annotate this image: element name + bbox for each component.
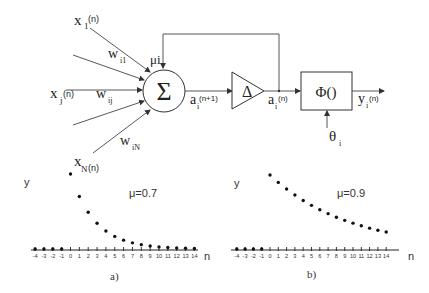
- chart-a-data-point: [131, 241, 134, 244]
- sum-output-label: a i (n+1): [190, 92, 218, 111]
- chart-a-tick-label: 13: [182, 253, 188, 259]
- chart-b-panel-label: b): [307, 268, 317, 281]
- chart-a-tick-label: 2: [87, 253, 90, 259]
- svg-text:w: w: [108, 46, 119, 61]
- chart-b-tick-label: 5: [310, 253, 313, 259]
- svg-text:a: a: [268, 92, 275, 107]
- svg-text:i: i: [339, 139, 342, 148]
- chart-b-tick-label: 0: [268, 253, 271, 259]
- svg-text:i1: i1: [120, 56, 126, 65]
- chart-a-data-point: [78, 195, 81, 198]
- chart-b-data-point: [277, 181, 280, 184]
- chart-a-tick-label: -1: [59, 253, 64, 259]
- chart-b: y μ=0.9 n b) -4-3-2-10123456789101112131…: [231, 173, 414, 281]
- chart-a-data-point: [122, 238, 125, 241]
- chart-b-tick-label: 12: [366, 253, 372, 259]
- chart-b-data-point: [318, 208, 321, 211]
- chart-a-data-point: [60, 247, 63, 250]
- chart-a-data-point: [87, 211, 90, 214]
- chart-b-tick-label: 9: [343, 253, 346, 259]
- svg-text:(n): (n): [63, 89, 74, 99]
- svg-text:i: i: [275, 102, 278, 111]
- chart-b-data-point: [335, 215, 338, 218]
- chart-a-data-point: [166, 246, 169, 249]
- chart-b-data-point: [235, 247, 238, 250]
- chart-b-tick-label: 11: [358, 253, 364, 259]
- chart-b-tick-label: 3: [293, 253, 296, 259]
- chart-b-annotation: μ=0.9: [337, 187, 365, 199]
- svg-text:a: a: [190, 92, 197, 107]
- chart-a-data-point: [113, 235, 116, 238]
- chart-b-tick-label: 4: [302, 253, 305, 259]
- chart-a-data-point: [51, 247, 54, 250]
- chart-b-data-point: [285, 187, 288, 190]
- chart-b-data-point: [376, 229, 379, 232]
- chart-b-xlabel: n: [408, 250, 414, 262]
- chart-b-tick-label: -2: [251, 253, 256, 259]
- chart-b-tick-label: 7: [327, 253, 330, 259]
- svg-text:(n): (n): [88, 163, 99, 173]
- chart-b-tick-label: 6: [318, 253, 321, 259]
- weight-label-ij: w ij: [96, 86, 112, 105]
- summation-symbol: Σ: [156, 77, 171, 106]
- chart-a-data-point: [193, 247, 196, 250]
- chart-a-data-point: [148, 244, 151, 247]
- chart-b-data-point: [260, 247, 263, 250]
- chart-a-tick-label: 5: [113, 253, 116, 259]
- activation-label: Φ(): [316, 84, 337, 101]
- chart-b-data-point: [360, 224, 363, 227]
- chart-a-tick-label: -4: [33, 253, 38, 259]
- svg-text:(n): (n): [278, 94, 288, 103]
- chart-b-data-point: [385, 230, 388, 233]
- chart-b-tick-label: 1: [277, 253, 280, 259]
- chart-b-tick-label: -1: [259, 253, 264, 259]
- chart-a-tick-label: 12: [174, 253, 180, 259]
- delay-output-label: a i (n): [268, 92, 288, 111]
- chart-b-tick-label: 14: [383, 253, 389, 259]
- chart-b-tick-label: 10: [350, 253, 356, 259]
- chart-a-data-point: [157, 245, 160, 248]
- chart-b-data-point: [252, 247, 255, 250]
- svg-text:j: j: [59, 95, 63, 105]
- chart-a-tick-label: 14: [191, 253, 197, 259]
- chart-b-data-point: [343, 219, 346, 222]
- input-label-N: x N (n): [74, 153, 99, 174]
- weight-label-i1: w i1: [108, 46, 126, 65]
- chart-a-tick-label: 11: [165, 253, 171, 259]
- svg-text:ij: ij: [108, 96, 112, 105]
- feedback-gain-label: μi: [150, 52, 161, 67]
- neuron-diagram: Σ μi Δ Φ() x 1 (n) x j (n) x N (n) w i1 …: [0, 0, 429, 293]
- chart-b-data-point: [268, 173, 271, 176]
- output-label: y i (n): [358, 91, 379, 110]
- svg-text:w: w: [96, 86, 107, 101]
- chart-a-data-point: [184, 247, 187, 250]
- chart-a-tick-label: -2: [50, 253, 55, 259]
- svg-text:w: w: [120, 133, 131, 148]
- svg-text:i: i: [197, 102, 200, 111]
- chart-a-panel-label: a): [110, 270, 119, 283]
- chart-b-data-point: [326, 212, 329, 215]
- chart-b-data-point: [368, 226, 371, 229]
- svg-text:iN: iN: [132, 143, 140, 152]
- chart-a-tick-label: 10: [156, 253, 162, 259]
- chart-b-tick-label: -4: [234, 253, 239, 259]
- chart-a-data-point: [175, 246, 178, 249]
- chart-b-tick-label: 2: [285, 253, 288, 259]
- chart-a-tick-label: 7: [131, 253, 134, 259]
- chart-a-tick-label: 8: [140, 253, 143, 259]
- chart-a-annotation: μ=0.7: [129, 187, 157, 199]
- chart-a-tick-label: 0: [69, 253, 72, 259]
- chart-a-tick-label: 4: [104, 253, 107, 259]
- chart-a-tick-label: 6: [122, 253, 125, 259]
- chart-b-tick-label: -3: [243, 253, 248, 259]
- chart-a-ylabel: y: [24, 176, 30, 188]
- chart-a-data-point: [42, 247, 45, 250]
- chart-b-tick-label: 13: [375, 253, 381, 259]
- svg-text:θ: θ: [329, 128, 336, 144]
- chart-a-tick-label: 9: [149, 253, 152, 259]
- weight-label-iN: w iN: [120, 133, 140, 152]
- input-label-1: x 1 (n): [74, 12, 99, 31]
- svg-text:(n+1): (n+1): [199, 94, 218, 103]
- delay-symbol: Δ: [242, 83, 252, 100]
- chart-a-data-point: [69, 172, 72, 175]
